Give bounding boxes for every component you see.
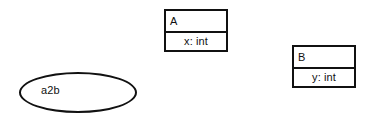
uml-class-a-name-compartment: A (166, 11, 226, 33)
uml-ellipse-a2b[interactable] (19, 72, 137, 113)
uml-ellipse-a2b-label: a2b (41, 85, 60, 96)
uml-class-b-name-compartment: B (294, 47, 354, 69)
uml-class-b-attribute-compartment: y: int (294, 69, 354, 86)
uml-diagram-canvas: A x: int B y: int a2b (0, 0, 367, 129)
uml-class-b-name: B (298, 52, 305, 63)
uml-class-a[interactable]: A x: int (164, 9, 228, 52)
uml-class-b-attribute: y: int (312, 72, 336, 83)
uml-class-a-attribute: x: int (184, 36, 208, 47)
uml-class-a-name: A (170, 16, 177, 27)
uml-class-b[interactable]: B y: int (292, 45, 356, 88)
uml-class-a-attribute-compartment: x: int (166, 33, 226, 50)
